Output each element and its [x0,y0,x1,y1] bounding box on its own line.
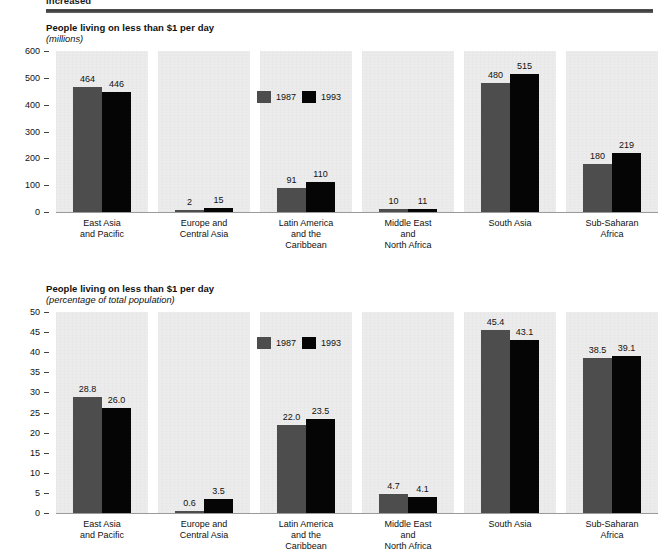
paper-grain [158,312,250,513]
chart-subtitle: (millions) [46,34,83,44]
y-axis-tick-label: 30 [14,388,40,397]
bar-value-label: 219 [605,141,648,150]
y-axis-tick-mark [44,78,49,79]
x-axis-baseline [56,212,658,213]
category-label: East Asia and Pacific [46,519,158,541]
bar [583,164,612,212]
bar [306,182,335,212]
legend-item-1993: 1993 [302,91,341,103]
bar-value-label: 26.0 [95,396,138,405]
bar-value-label: 3.5 [197,487,240,496]
y-axis-tick-label: 400 [14,101,40,110]
legend-label-1993: 1993 [321,93,341,102]
y-axis-tick-mark [44,105,49,106]
legend-swatch-1987 [257,337,271,349]
chart-title: People living on less than $1 per day [46,22,214,33]
bar-value-label: 39.1 [605,344,648,353]
x-axis-baseline [56,513,658,514]
category-label: South Asia [454,519,566,530]
bar [481,330,510,513]
bar [612,153,641,212]
y-axis-tick-mark [44,413,49,414]
bar-value-label: 23.5 [299,407,342,416]
legend-item-1987: 1987 [257,337,296,349]
bar [481,83,510,212]
chart-panel [158,312,250,513]
category-label: Middle East and North Africa [352,218,464,251]
y-axis-tick-mark [44,493,49,494]
y-axis-tick-mark [44,513,49,514]
legend-swatch-1987 [257,91,271,103]
y-axis-tick-mark [44,332,49,333]
bar [408,497,437,513]
y-axis-tick-label: 50 [14,308,40,317]
bar [612,356,641,513]
bar-value-label: 45.4 [474,318,517,327]
bar-value-label: 11 [401,197,444,206]
bar [510,340,539,513]
y-axis-tick-mark [44,158,49,159]
legend-swatch-1993 [302,91,316,103]
chart-title: People living on less than $1 per day [46,283,214,294]
legend-label-1987: 1987 [276,93,296,102]
category-label: Middle East and North Africa [352,519,464,552]
y-axis-tick-mark [44,312,49,313]
bar [510,74,539,212]
bar [73,397,102,513]
chart-legend: 19871993 [257,91,341,103]
y-axis-tick-mark [44,51,49,52]
category-label: Latin America and the Caribbean [250,218,362,251]
bar [277,188,306,212]
bar-value-label: 110 [299,170,342,179]
bar-value-label: 446 [95,80,138,89]
chart-subtitle: (percentage of total population) [46,295,175,305]
y-axis-tick-label: 40 [14,348,40,357]
category-label: Europe and Central Asia [148,218,260,240]
y-axis-tick-label: 25 [14,409,40,418]
category-label: Latin America and the Caribbean [250,519,362,552]
cut-off-heading: increased [46,0,91,4]
y-axis-tick-label: 10 [14,469,40,478]
y-axis-tick-label: 300 [14,128,40,137]
y-axis-tick-label: 45 [14,328,40,337]
bar-value-label: 15 [197,196,240,205]
category-label: Sub-Saharan Africa [556,218,668,240]
bar [102,408,131,513]
y-axis-tick-label: 0 [14,509,40,518]
legend-item-1987: 1987 [257,91,296,103]
bar [306,419,335,513]
bar [73,87,102,212]
y-axis-tick-mark [44,212,49,213]
y-axis-tick-mark [44,433,49,434]
category-label: Europe and Central Asia [148,519,260,541]
y-axis-tick-mark [44,132,49,133]
y-axis-tick-label: 500 [14,74,40,83]
y-axis-tick-label: 100 [14,181,40,190]
bar [583,358,612,513]
bar-value-label: 4.1 [401,485,444,494]
y-axis-tick-mark [44,185,49,186]
y-axis-tick-label: 0 [14,208,40,217]
bar-value-label: 28.8 [66,385,109,394]
chart-panel [362,51,454,212]
y-axis-tick-label: 35 [14,368,40,377]
paper-grain [158,51,250,212]
bar [102,92,131,212]
y-axis-tick-mark [44,392,49,393]
legend-label-1993: 1993 [321,339,341,348]
bar [204,499,233,513]
y-axis-tick-label: 15 [14,449,40,458]
legend-swatch-1993 [302,337,316,349]
horizontal-rule [46,9,653,13]
bar [379,494,408,513]
chart-legend: 19871993 [257,337,341,349]
bar-value-label: 515 [503,62,546,71]
y-axis-tick-mark [44,372,49,373]
bar [277,425,306,513]
legend-item-1993: 1993 [302,337,341,349]
y-axis-tick-mark [44,473,49,474]
legend-label-1987: 1987 [276,339,296,348]
category-label: Sub-Saharan Africa [556,519,668,541]
paper-grain [362,51,454,212]
